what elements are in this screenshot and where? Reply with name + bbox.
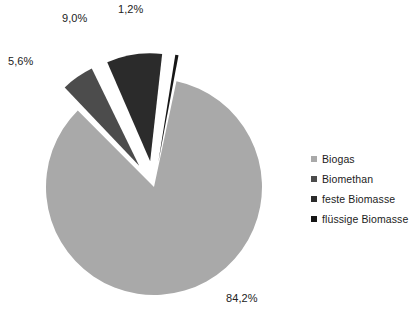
legend-item-label: flüssige Biomasse xyxy=(322,213,408,225)
legend-item-label: Biogas xyxy=(322,153,355,165)
legend-item-label: feste Biomasse xyxy=(322,193,395,205)
legend-item-feste-biomasse[interactable]: feste Biomasse xyxy=(311,190,415,208)
legend-swatch-icon xyxy=(311,196,317,202)
pie-chart: 5,6% 9,0% 1,2% 84,2% Biogas Biomethan fe… xyxy=(0,0,416,318)
pie-slice-feste-biomasse[interactable] xyxy=(107,53,162,161)
legend-swatch-icon xyxy=(311,216,317,222)
legend-item-biomethan[interactable]: Biomethan xyxy=(311,170,415,188)
legend-swatch-icon xyxy=(311,176,317,182)
chart-legend: Biogas Biomethan feste Biomasse flüssige… xyxy=(311,150,415,230)
slice-label-feste-biomasse: 9,0% xyxy=(62,12,87,24)
legend-swatch-icon xyxy=(311,156,317,162)
pie-slices xyxy=(46,53,262,295)
legend-item-label: Biomethan xyxy=(322,173,373,185)
legend-item-biogas[interactable]: Biogas xyxy=(311,150,415,168)
legend-item-fluessige-biomasse[interactable]: flüssige Biomasse xyxy=(311,210,415,228)
slice-label-fluessige-biomasse: 1,2% xyxy=(118,3,143,15)
slice-label-biogas: 84,2% xyxy=(226,292,258,304)
slice-label-biomethan: 5,6% xyxy=(8,55,33,67)
